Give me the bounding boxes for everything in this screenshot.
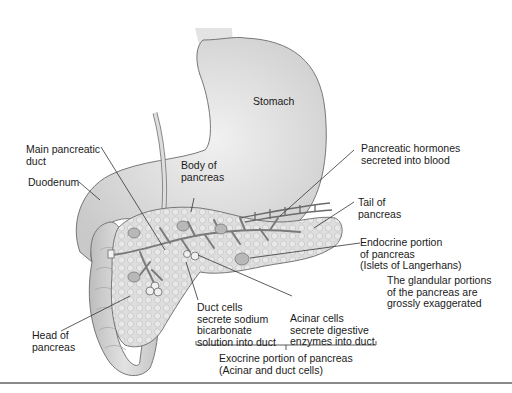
label-stomach: Stomach <box>253 96 294 108</box>
bottom-rule <box>0 382 512 384</box>
label-head-of-pancreas: Head of pancreas <box>32 330 75 353</box>
label-pancreatic-hormones: Pancreatic hormones secreted into blood <box>361 143 460 166</box>
label-duct-cells: Duct cells secrete sodium bicarbonate so… <box>197 302 276 348</box>
label-duodenum: Duodenum <box>28 177 79 189</box>
label-endocrine-portion: Endocrine portion of pancreas (Islets of… <box>360 237 462 272</box>
label-tail-of-pancreas: Tail of pancreas <box>358 197 401 220</box>
label-main-pancreatic-duct: Main pancreatic duct <box>26 144 100 167</box>
label-note-exaggerated: The glandular portions of the pancreas a… <box>387 275 491 310</box>
label-acinar-cells: Acinar cells secrete digestive enzymes i… <box>290 313 375 348</box>
label-body-of-pancreas: Body of pancreas <box>181 160 224 183</box>
label-exocrine-portion: Exocrine portion of pancreas (Acinar and… <box>219 353 353 376</box>
